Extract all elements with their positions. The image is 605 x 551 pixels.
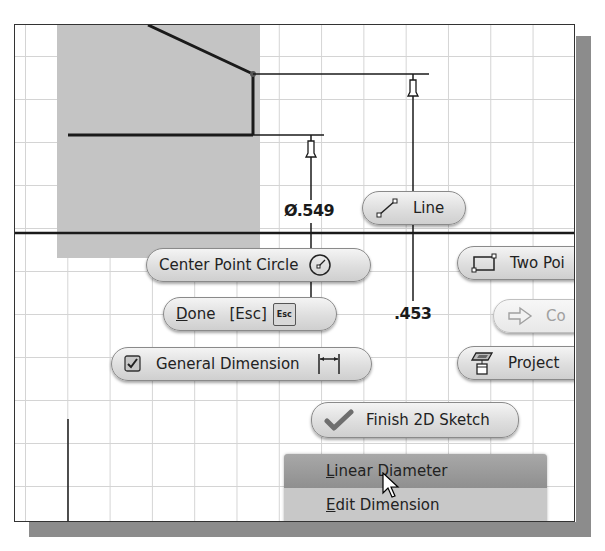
line-button[interactable]: Line — [362, 191, 466, 225]
project-geometry-label: Project — [508, 354, 559, 372]
center-point-circle-button[interactable]: Center Point Circle — [146, 248, 371, 282]
general-dimension-button[interactable]: General Dimension — [111, 347, 372, 381]
dimension-linear-453[interactable]: .453 — [394, 304, 431, 323]
arrowhead-549 — [306, 141, 316, 157]
menu-item-edit-dimension[interactable]: Edit Dimension — [284, 488, 547, 522]
arrow-right-icon — [506, 305, 534, 327]
project-geometry-button[interactable]: Project — [457, 346, 575, 380]
chamfer-line — [148, 25, 253, 74]
sketch-canvas[interactable]: Ø.549 .453 Line Center Point Circle Two … — [14, 24, 575, 522]
context-menu: Linear Diameter Edit Dimension — [284, 454, 547, 522]
finish-2d-sketch-label: Finish 2D Sketch — [366, 411, 490, 429]
window-shadow-bottom — [29, 522, 591, 537]
continue-label: Co — [546, 307, 566, 325]
done-shortcut: [Esc] — [229, 305, 266, 323]
line-icon — [375, 197, 399, 219]
center-point-circle-label: Center Point Circle — [159, 256, 298, 274]
two-point-rectangle-button[interactable]: Two Poi — [457, 246, 575, 280]
mouse-pointer-icon — [382, 472, 402, 500]
dimension-diameter-549[interactable]: Ø.549 — [284, 201, 334, 220]
menu-item-linear-diameter[interactable]: Linear Diameter — [284, 454, 547, 488]
checkbox-checked-icon — [124, 355, 142, 373]
esc-key-icon: Esc — [273, 303, 296, 326]
arrowhead-453 — [408, 80, 418, 96]
window-shadow-right — [576, 36, 591, 537]
checkmark-icon — [324, 408, 354, 432]
rectangle-icon — [470, 252, 498, 274]
circle-icon — [308, 253, 332, 277]
general-dimension-label: General Dimension — [156, 355, 300, 373]
done-label: Done — [176, 305, 215, 323]
dimension-icon — [316, 352, 342, 376]
project-geometry-icon — [470, 350, 496, 376]
two-point-rectangle-label: Two Poi — [510, 254, 565, 272]
finish-2d-sketch-button[interactable]: Finish 2D Sketch — [311, 402, 519, 438]
line-label: Line — [413, 199, 444, 217]
done-button[interactable]: Done [Esc] Esc — [163, 297, 337, 331]
continue-button[interactable]: Co — [493, 299, 575, 333]
